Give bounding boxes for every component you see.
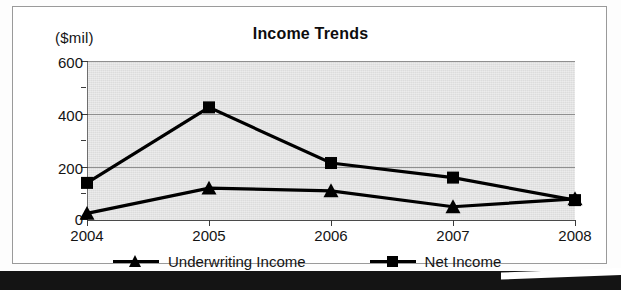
data-point-square[interactable] (325, 157, 337, 169)
x-tick-2004 (87, 220, 88, 226)
x-axis-label-2004: 2004 (57, 227, 117, 244)
y-axis-label-600: 600 (43, 54, 83, 71)
x-axis-labels: 2004 2005 2006 2007 2008 (87, 227, 575, 247)
x-axis-label-2006: 2006 (301, 227, 361, 244)
legend-item-underwriting-income[interactable]: Underwriting Income (113, 253, 306, 270)
scanned-page: ($mil) Income Trends 600 400 200 0 (0, 0, 621, 290)
y-axis-labels: 600 400 200 0 (39, 61, 83, 220)
x-axis-label-2005: 2005 (179, 227, 239, 244)
data-point-square[interactable] (81, 177, 93, 189)
x-tick-2006 (331, 220, 332, 226)
data-point-square[interactable] (447, 172, 459, 184)
scan-shadow-bar (0, 271, 621, 290)
chart-legend: Underwriting Income Net Income (87, 250, 557, 272)
x-axis-ticks (87, 220, 576, 227)
x-axis-label-2007: 2007 (423, 227, 483, 244)
chart-frame: ($mil) Income Trends 600 400 200 0 (12, 6, 607, 264)
y-axis-label-200: 200 (43, 160, 83, 177)
x-tick-2007 (453, 220, 454, 226)
x-tick-2005 (209, 220, 210, 226)
series-layer (87, 61, 575, 220)
legend-label-underwriting-income: Underwriting Income (168, 253, 306, 270)
y-axis-label-0: 0 (43, 211, 83, 228)
chart-title: Income Trends (13, 25, 608, 43)
x-axis-label-2008: 2008 (545, 227, 605, 244)
legend-item-net-income[interactable]: Net Income (370, 253, 502, 270)
triangle-marker-icon (113, 253, 159, 269)
y-axis-label-400: 400 (43, 107, 83, 124)
legend-label-net-income: Net Income (425, 253, 502, 270)
square-marker-icon (370, 253, 416, 269)
data-point-square[interactable] (203, 101, 215, 113)
x-tick-2008 (575, 220, 576, 226)
